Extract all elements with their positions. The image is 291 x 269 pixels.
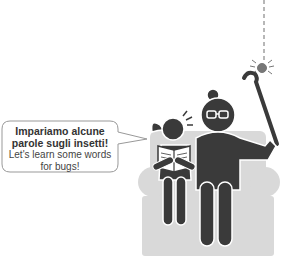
english-text: Let's learn some words for bugs!: [4, 149, 116, 173]
book-icon: [152, 146, 196, 172]
italian-text: Impariamo alcune parole sugli insetti!: [4, 125, 116, 149]
speech-lines: [183, 111, 193, 125]
speech-bubble: Impariamo alcune parole sugli insetti! L…: [4, 121, 116, 171]
